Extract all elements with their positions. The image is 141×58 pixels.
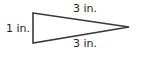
label-top-side: 3 in.	[73, 3, 97, 14]
label-left-side: 1 in.	[6, 23, 30, 34]
label-bottom-side: 3 in.	[73, 38, 97, 49]
